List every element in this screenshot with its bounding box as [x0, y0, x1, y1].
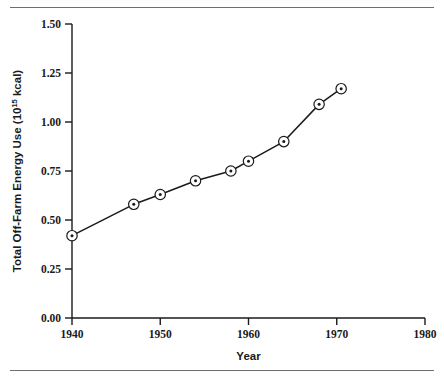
data-point-marker	[314, 99, 324, 109]
data-point-marker	[67, 230, 77, 240]
data-point-marker	[155, 189, 165, 199]
y-axis-tick-label: 0.50	[41, 214, 61, 226]
x-axis: 19401950196019701980	[61, 318, 437, 340]
y-axis-tick-label: 1.25	[41, 67, 61, 79]
y-axis-tick-label: 0.00	[41, 312, 61, 324]
y-axis-tick-label: 0.25	[41, 263, 61, 275]
data-point-dot	[318, 103, 321, 106]
y-axis-title: Total Off-Farm Energy Use (1015 kcal)	[10, 70, 23, 273]
x-axis-tick-label: 1950	[149, 328, 172, 340]
x-axis-tick-label: 1960	[237, 328, 260, 340]
series-line	[72, 89, 341, 236]
data-point-dot	[159, 193, 162, 196]
data-point-marker	[190, 176, 200, 186]
x-axis-tick-label: 1980	[414, 328, 437, 340]
y-axis-tick-label: 1.00	[41, 116, 61, 128]
data-point-marker	[336, 83, 346, 93]
data-point-marker	[279, 136, 289, 146]
x-axis-tick-label: 1970	[325, 328, 348, 340]
y-axis-tick-label: 0.75	[41, 165, 61, 177]
figure-container: 0.000.250.500.751.001.251.50 19401950196…	[0, 0, 444, 384]
data-point-marker	[243, 156, 253, 166]
data-point-dot	[340, 87, 343, 90]
data-series	[67, 83, 347, 240]
y-axis-title-text: Total Off-Farm Energy Use (1015 kcal)	[10, 70, 23, 273]
y-axis-tick-label: 1.50	[41, 18, 61, 30]
line-chart: 0.000.250.500.751.001.251.50 19401950196…	[0, 0, 444, 384]
data-point-dot	[229, 170, 232, 173]
data-point-dot	[132, 203, 135, 206]
data-point-dot	[282, 140, 285, 143]
data-point-dot	[247, 160, 250, 163]
data-point-marker	[129, 199, 139, 209]
data-point-marker	[226, 166, 236, 176]
data-point-dot	[71, 234, 74, 237]
data-point-dot	[194, 179, 197, 182]
x-axis-title: Year	[236, 350, 261, 362]
y-axis: 0.000.250.500.751.001.251.50	[41, 18, 72, 324]
x-axis-tick-label: 1940	[61, 328, 84, 340]
